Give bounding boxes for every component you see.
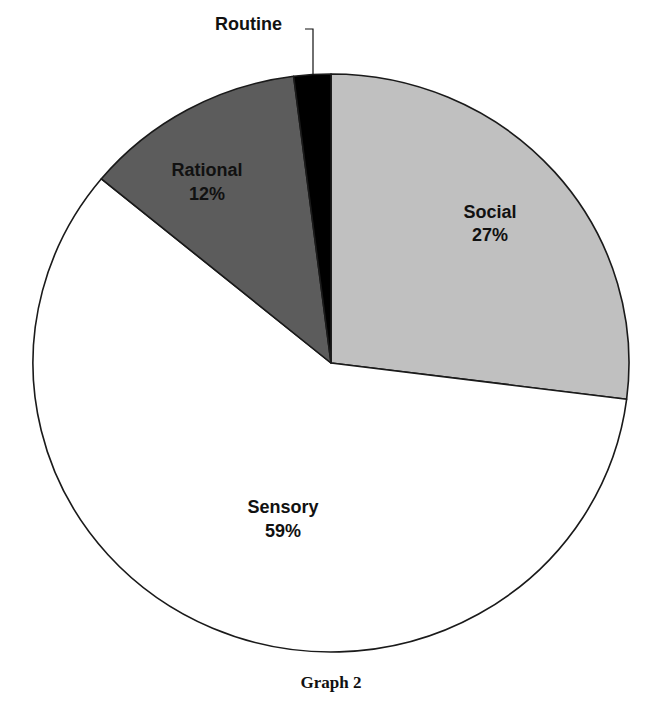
label-routine: Routine <box>215 14 282 34</box>
figure-caption: Graph 2 <box>0 673 662 693</box>
label-sensory: Sensory <box>247 497 318 517</box>
value-social: 27% <box>472 225 508 245</box>
value-rational: 12% <box>189 184 225 204</box>
routine-leader-line <box>305 29 313 75</box>
value-sensory: 59% <box>265 521 301 541</box>
label-social: Social <box>463 202 516 222</box>
pie-chart: Social 27% Sensory 59% Rational 12% Rout… <box>0 0 662 725</box>
label-rational: Rational <box>171 160 242 180</box>
pie-slices <box>33 74 629 652</box>
